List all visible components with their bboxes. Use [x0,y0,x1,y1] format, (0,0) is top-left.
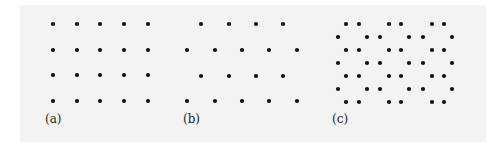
lattice-dot [199,74,203,78]
lattice-dot [281,74,285,78]
lattice-dot [213,99,217,103]
lattice-dot [365,87,369,91]
lattice-dot [365,35,369,39]
lattice-dot [365,61,369,65]
lattice-dot [98,22,102,26]
lattice-dot [51,48,55,52]
lattice-dot [344,74,348,78]
lattice-dot [336,35,340,39]
lattice-dot [51,22,55,26]
lattice-dot [199,22,203,26]
lattice-dot [185,99,189,103]
lattice-dot [407,35,411,39]
lattice-dot [399,48,403,52]
lattice-dot [122,48,126,52]
lattice-dot [357,74,361,78]
lattice-dot [378,61,382,65]
lattice-dot [213,48,217,52]
lattice-dot [399,22,403,26]
lattice-dot [399,100,403,104]
lattice-dot [254,74,258,78]
lattice-dot [267,48,271,52]
lattice-dot [430,48,434,52]
lattice-dot [98,99,102,103]
lattice-dot [407,87,411,91]
lattice-dot [254,22,258,26]
lattice-dot [442,22,446,26]
lattice-dot [98,73,102,77]
lattice-figure [0,0,500,150]
lattice-dot [51,73,55,77]
panel-a-lattice [51,22,150,103]
lattice-dot [267,99,271,103]
lattice-dot [344,48,348,52]
lattice-dot [378,87,382,91]
lattice-dot [399,74,403,78]
panel-b-lattice [185,22,299,103]
lattice-dot [430,100,434,104]
lattice-dot [344,22,348,26]
lattice-dot [122,22,126,26]
lattice-dot [430,74,434,78]
lattice-dot [387,74,391,78]
lattice-dot [344,100,348,104]
panel-c-label: (c) [332,113,348,125]
lattice-dot [357,48,361,52]
lattice-dot [75,99,79,103]
lattice-dot [146,73,150,77]
lattice-dot [450,87,454,91]
lattice-dot [378,35,382,39]
lattice-dot [146,99,150,103]
lattice-dot [421,35,425,39]
lattice-dot [122,99,126,103]
lattice-dot [185,48,189,52]
lattice-dot [51,99,55,103]
lattice-dot [146,22,150,26]
lattice-dot [407,61,411,65]
panel-a-label: (a) [45,113,62,125]
lattice-dot [430,22,434,26]
lattice-dot [122,73,126,77]
lattice-dot [336,61,340,65]
lattice-dot [75,22,79,26]
lattice-dot [357,22,361,26]
lattice-dot [387,48,391,52]
lattice-dot [387,22,391,26]
lattice-dot [295,99,299,103]
lattice-dot [421,87,425,91]
lattice-dot [442,48,446,52]
lattice-dot [450,61,454,65]
lattice-dot [98,48,102,52]
lattice-dot [146,48,150,52]
lattice-dot [227,22,231,26]
lattice-dot [227,74,231,78]
lattice-dot [75,73,79,77]
lattice-dot [357,100,361,104]
lattice-dot [295,48,299,52]
panel-c-lattice [336,22,454,104]
lattice-dot [442,100,446,104]
lattice-dot [421,61,425,65]
lattice-dot [336,87,340,91]
lattice-dot [387,100,391,104]
lattice-dot [450,35,454,39]
lattice-dot [281,22,285,26]
lattice-dot [442,74,446,78]
lattice-dot [75,48,79,52]
panel-b-label: (b) [183,113,200,125]
lattice-dot [240,48,244,52]
lattice-dot [240,99,244,103]
